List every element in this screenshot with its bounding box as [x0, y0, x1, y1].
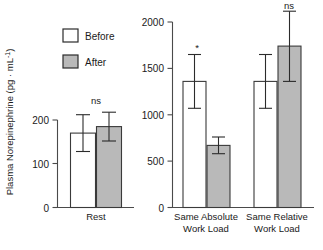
exercise-ylabel-2000: 2000	[142, 17, 165, 28]
chart-svg: Plasma Norepinephrine (pg · mL-1) Before…	[0, 0, 323, 250]
exercise-ylabel-1000: 1000	[142, 110, 165, 121]
rest-significance-ns: ns	[91, 95, 101, 106]
same-relative-label-line2: Work Load	[254, 223, 300, 234]
exercise-ylabel-500: 500	[147, 156, 164, 167]
y-axis-title-close: )	[4, 49, 15, 52]
y-axis-title: Plasma Norepinephrine (pg · mL-1)	[4, 49, 15, 196]
same-absolute-label-line1: Same Absolute	[174, 211, 238, 222]
legend-swatch-before	[63, 29, 78, 42]
rest-ylabel-0: 0	[43, 203, 49, 214]
legend-label-before: Before	[85, 31, 115, 42]
legend-label-after: After	[85, 57, 107, 68]
figure-container: Plasma Norepinephrine (pg · mL-1) Before…	[0, 0, 323, 250]
exercise-ylabel-1500: 1500	[142, 63, 165, 74]
y-axis-title-main: Plasma Norepinephrine (pg · mL	[4, 58, 15, 195]
same-absolute-significance-star: *	[195, 42, 199, 53]
svg-text:Plasma Norepinephrine (pg · mL: Plasma Norepinephrine (pg · mL-1)	[4, 49, 15, 196]
legend-swatch-after	[63, 55, 78, 68]
same-absolute-bar-after	[207, 145, 230, 207]
exercise-ylabel-0: 0	[158, 203, 164, 214]
rest-panel: 200 100 0	[32, 95, 134, 222]
same-relative-label-line1: Same Relative	[246, 211, 308, 222]
same-absolute-label-line2: Work Load	[183, 223, 229, 234]
legend: Before After	[63, 29, 115, 68]
rest-category-label: Rest	[86, 211, 106, 222]
exercise-panel: 2000 1500 1000 500 0	[142, 0, 314, 234]
rest-ylabel-200: 200	[32, 115, 49, 126]
y-axis-title-wrap: Plasma Norepinephrine (pg · mL-1) Before…	[0, 0, 323, 250]
same-relative-significance-ns: ns	[284, 0, 294, 11]
rest-ylabel-100: 100	[32, 159, 49, 170]
